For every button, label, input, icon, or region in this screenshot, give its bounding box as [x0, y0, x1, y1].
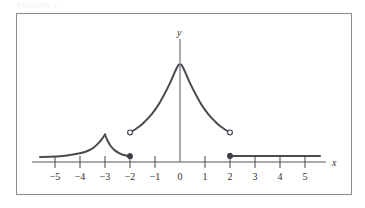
curve-left-asymptotic-branch — [130, 65, 179, 133]
tick-label-5: 5 — [303, 171, 308, 182]
curve-cusp-descending-branch — [105, 134, 130, 156]
graph-canvas: x y −5 −4 −3 −2 −1 0 1 2 3 4 — [0, 0, 365, 208]
curve-right-asymptotic-branch — [181, 65, 230, 133]
endpoint-closed-point-right — [227, 153, 232, 158]
endpoint-closed-point-left — [127, 154, 132, 159]
tick-label-neg3: −3 — [100, 171, 111, 182]
tick-label-2: 2 — [228, 171, 233, 182]
endpoint-open-point-right — [228, 130, 233, 135]
tick-label-neg1: −1 — [150, 171, 161, 182]
tick-label-neg4: −4 — [75, 171, 86, 182]
tick-label-4: 4 — [278, 171, 283, 182]
x-axis-tick-labels: −5 −4 −3 −2 −1 0 1 2 3 4 5 — [50, 171, 308, 182]
y-axis-label: y — [176, 27, 182, 38]
tick-label-neg2: −2 — [125, 171, 136, 182]
tick-label-0: 0 — [178, 171, 183, 182]
tick-label-neg5: −5 — [50, 171, 61, 182]
curve-left-tail-branch — [40, 134, 105, 157]
figure-root: FIGURE 1 x y −5 −4 −3 −2 −1 — [0, 0, 365, 208]
endpoint-open-point-left — [128, 130, 133, 135]
tick-label-1: 1 — [203, 171, 208, 182]
x-axis-label: x — [331, 157, 337, 168]
tick-label-3: 3 — [253, 171, 258, 182]
